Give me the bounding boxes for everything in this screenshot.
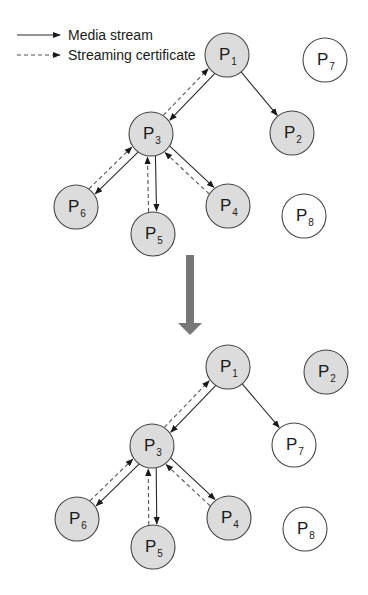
legend: Media stream Streaming certificate xyxy=(17,27,196,63)
certificate-edge-P5-P3 xyxy=(148,469,149,525)
node-p4: P4 xyxy=(207,496,251,540)
media-stream-edge-P1-P7 xyxy=(242,384,279,428)
streaming-topology-diagram: Media stream Streaming certificate P1P2P… xyxy=(0,0,368,595)
node-p8: P8 xyxy=(283,507,327,551)
node-p1: P1 xyxy=(206,345,250,389)
node-p6: P6 xyxy=(54,185,98,229)
media-stream-edge-P1-P3 xyxy=(171,386,216,433)
media-stream-edge-P3-P6 xyxy=(96,464,139,506)
legend-label-media-stream: Media stream xyxy=(68,27,153,43)
node-p8: P8 xyxy=(282,194,326,238)
transition-arrow-icon xyxy=(178,255,202,335)
node-p7: P7 xyxy=(303,38,347,82)
certificate-edge-P6-P3 xyxy=(89,147,132,189)
topology-after: P1P2P3P4P5P6P7P8 xyxy=(55,345,348,569)
legend-item-media-stream: Media stream xyxy=(17,27,153,43)
certificate-edge-P4-P3 xyxy=(165,153,209,194)
certificate-edge-P5-P3 xyxy=(147,157,148,212)
media-stream-edge-P3-P5 xyxy=(156,468,157,524)
media-stream-edge-P3-P5 xyxy=(155,156,156,211)
media-stream-edge-P1-P3 xyxy=(170,74,215,121)
node-p6: P6 xyxy=(55,497,99,541)
node-p5: P5 xyxy=(131,525,175,569)
node-p7: P7 xyxy=(272,423,316,467)
node-p3: P3 xyxy=(130,424,174,468)
certificate-edge-P6-P3 xyxy=(90,459,133,501)
node-p2: P2 xyxy=(270,111,314,155)
node-p2: P2 xyxy=(304,350,348,394)
media-stream-edge-P3-P4 xyxy=(171,458,215,499)
certificate-edge-P4-P3 xyxy=(166,465,210,506)
legend-label-streaming-certificate: Streaming certificate xyxy=(68,47,196,63)
legend-item-streaming-certificate: Streaming certificate xyxy=(17,47,196,63)
media-stream-edge-P1-P2 xyxy=(241,72,277,115)
certificate-edge-P3-P1 xyxy=(163,69,208,116)
media-stream-edge-P3-P6 xyxy=(95,152,138,194)
media-stream-edge-P3-P4 xyxy=(170,146,214,187)
node-p5: P5 xyxy=(131,212,175,256)
node-p4: P4 xyxy=(206,184,250,228)
node-p1: P1 xyxy=(205,33,249,77)
topology-before: P1P2P3P4P5P6P7P8 xyxy=(54,33,347,256)
node-p3: P3 xyxy=(129,112,173,156)
certificate-edge-P3-P1 xyxy=(164,381,209,428)
